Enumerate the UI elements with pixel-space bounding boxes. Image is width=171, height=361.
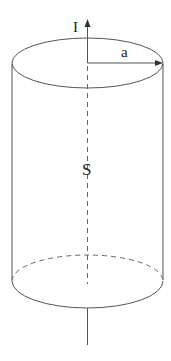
bottom-ellipse-front [12,281,163,308]
surface-label: S [82,160,91,179]
radius-label: a [121,44,128,60]
cylinder-diagram: I a S [0,0,171,361]
current-label: I [73,19,78,35]
current-arrow-icon [85,19,91,27]
radius-arrow-icon [155,60,163,66]
